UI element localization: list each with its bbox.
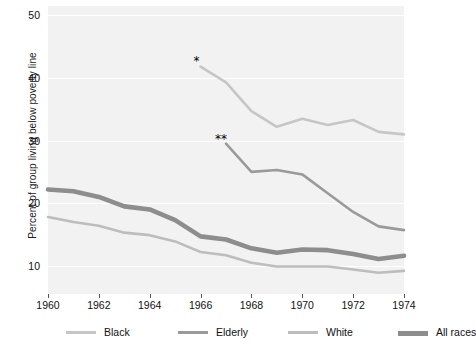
x-tick-mark: [150, 294, 151, 298]
series-line-black: [201, 67, 404, 135]
x-tick-label: 1968: [231, 299, 271, 311]
y-axis-title: Percent of group living below poverty li…: [27, 0, 38, 296]
footnote-marker: *: [193, 58, 199, 64]
legend-label: White: [326, 324, 353, 340]
x-tick-mark: [353, 294, 354, 298]
legend-label: Elderly: [216, 324, 248, 340]
x-tick-label: 1960: [28, 299, 68, 311]
legend-label: Black: [104, 324, 130, 340]
legend-swatch: [66, 331, 96, 334]
series-line-all-races: [48, 189, 404, 259]
x-tick-mark: [99, 294, 100, 298]
x-tick-label: 1972: [333, 299, 373, 311]
x-tick-mark: [201, 294, 202, 298]
legend: BlackElderlyWhiteAll races: [48, 324, 420, 346]
y-tick-label: 40: [6, 72, 40, 84]
y-tick-label: 20: [6, 197, 40, 209]
y-tick-label: 30: [6, 135, 40, 147]
plot-area: [48, 6, 404, 294]
legend-swatch: [398, 331, 428, 336]
x-tick-mark: [404, 294, 405, 298]
x-tick-mark: [251, 294, 252, 298]
footnote-marker: **: [215, 136, 227, 142]
legend-label: All races: [436, 324, 476, 340]
y-tick-label: 10: [6, 260, 40, 272]
series-line-elderly: [226, 144, 404, 230]
series-layer: [48, 6, 404, 294]
x-tick-label: 1970: [282, 299, 322, 311]
y-tick-label: 50: [6, 9, 40, 21]
x-tick-label: 1964: [130, 299, 170, 311]
legend-swatch: [288, 331, 318, 334]
x-tick-mark: [48, 294, 49, 298]
x-tick-mark: [302, 294, 303, 298]
legend-swatch: [178, 331, 208, 334]
series-line-white: [48, 217, 404, 273]
x-tick-label: 1974: [384, 299, 424, 311]
x-tick-label: 1962: [79, 299, 119, 311]
x-tick-label: 1966: [181, 299, 221, 311]
